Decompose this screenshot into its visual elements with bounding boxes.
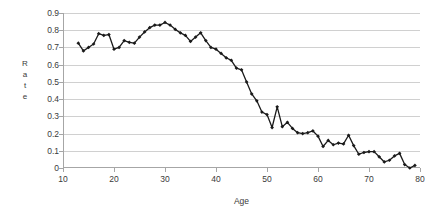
data-point-marker [107, 33, 111, 37]
data-point-marker [337, 141, 341, 145]
y-axis-tick-mark [59, 82, 63, 83]
x-axis-title: Age [63, 196, 420, 206]
y-axis-tick-mark [59, 65, 63, 66]
x-axis-tick-mark [420, 168, 421, 172]
x-axis-tick-label: 40 [201, 175, 231, 184]
plot-area [63, 13, 420, 168]
x-axis-tick-label: 20 [99, 175, 129, 184]
x-axis-tick-label: 70 [354, 175, 384, 184]
x-axis-tick-labels: 1020304050607080 [63, 168, 420, 190]
y-axis-tick-label: 0.8 [33, 26, 59, 35]
x-axis-tick-label: 60 [303, 175, 333, 184]
x-axis-tick-mark [165, 168, 166, 172]
data-point-marker [270, 126, 274, 130]
y-axis-tick-label: 0.6 [33, 61, 59, 70]
series-line-rate-by-age [63, 13, 420, 168]
x-axis-tick-label: 50 [252, 175, 282, 184]
y-axis-tick-label: 0.1 [33, 147, 59, 156]
y-axis-tick-label: 0.4 [33, 95, 59, 104]
data-point-marker [306, 131, 310, 135]
y-axis-tick-labels: 00.10.20.30.40.50.60.70.80.9 [31, 13, 59, 168]
x-axis-tick-mark [318, 168, 319, 172]
y-axis-tick-label: 0.7 [33, 43, 59, 52]
y-axis-tick-mark [59, 30, 63, 31]
x-axis-tick-label: 30 [150, 175, 180, 184]
x-axis-tick-mark [369, 168, 370, 172]
y-axis-tick-mark [59, 47, 63, 48]
data-point-marker [127, 40, 131, 44]
x-axis-tick-label: 10 [48, 175, 78, 184]
series-polyline [78, 22, 415, 168]
y-axis-tick-label: 0.9 [33, 9, 59, 18]
x-axis-tick-label: 80 [405, 175, 435, 184]
data-point-marker [367, 150, 371, 154]
data-point-marker [102, 34, 106, 38]
x-axis-tick-mark [63, 168, 64, 172]
y-axis-tick-label: 0.3 [33, 112, 59, 121]
y-axis-tick-mark [59, 134, 63, 135]
x-axis-tick-mark [216, 168, 217, 172]
x-axis-tick-mark [267, 168, 268, 172]
y-axis-tick-mark [59, 151, 63, 152]
y-axis-tick-mark [59, 99, 63, 100]
data-point-marker [275, 105, 279, 109]
y-axis-tick-label: 0.2 [33, 130, 59, 139]
data-point-marker [245, 80, 249, 84]
y-axis-tick-label: 0.5 [33, 78, 59, 87]
data-point-marker [362, 151, 366, 155]
y-axis-tick-label: 0 [33, 164, 59, 173]
chart-container: R a t e 00.10.20.30.40.50.60.70.80.9 102… [0, 0, 438, 219]
data-point-marker [301, 132, 305, 136]
y-axis-tick-mark [59, 13, 63, 14]
data-point-marker [240, 68, 244, 72]
data-point-marker [112, 47, 116, 51]
y-axis-tick-mark [59, 116, 63, 117]
x-axis-tick-mark [114, 168, 115, 172]
